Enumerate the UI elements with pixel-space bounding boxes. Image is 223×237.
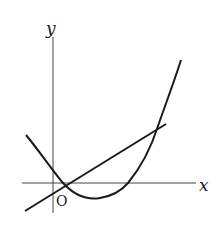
x-axis-label: x (199, 177, 209, 194)
graph-canvas (0, 0, 223, 237)
graph-diagram: y x O (0, 0, 223, 237)
y-axis-label: y (46, 20, 56, 37)
origin-label: O (56, 194, 67, 208)
